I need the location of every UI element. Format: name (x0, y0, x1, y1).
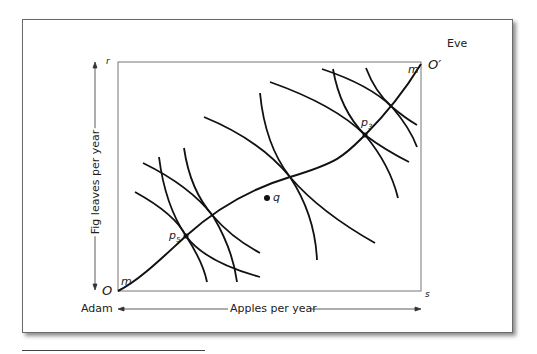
adam-indifference-curve-3 (204, 117, 375, 243)
origin-eve-label: O′ (428, 58, 441, 71)
x-axis-label: Apples per year (230, 303, 317, 314)
point-p3-label: p3 (361, 117, 372, 131)
contract-curve-low-label: m (121, 276, 132, 287)
contract-curve-high-label: m (408, 64, 419, 75)
corner-r-label: r (106, 57, 110, 66)
contract-curve (118, 64, 421, 291)
point-q-marker (264, 195, 270, 201)
adam-label: Adam (81, 303, 113, 314)
eve-label: Eve (447, 38, 467, 49)
point-p5-marker (184, 234, 189, 239)
point-q-label: q (273, 192, 280, 203)
edgeworth-box-diagram (0, 0, 537, 354)
point-p5-label: p5 (169, 230, 180, 244)
point-p3-marker (363, 133, 368, 138)
footnote-divider (22, 350, 205, 351)
corner-s-label: s (425, 290, 430, 299)
eve-indifference-curve-5 (366, 68, 417, 147)
eve-indifference-curve-3 (260, 93, 317, 260)
y-axis-label: Fig leaves per year (90, 128, 101, 236)
origin-adam-label: O (102, 284, 112, 297)
